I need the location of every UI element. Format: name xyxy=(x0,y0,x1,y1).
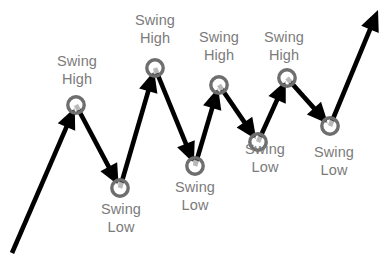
trend-segment xyxy=(12,125,67,253)
trend-segment xyxy=(155,68,187,146)
label-line-1: Swing xyxy=(305,143,363,161)
label-line-2: Low xyxy=(236,158,294,176)
label-line-2: Low xyxy=(92,218,150,236)
label-line-2: Low xyxy=(166,196,224,214)
swing-point-center-icon xyxy=(70,99,82,111)
label-swing-high-1: SwingHigh xyxy=(48,52,106,88)
label-line-2: High xyxy=(126,29,184,47)
label-swing-low-3: SwingLow xyxy=(236,140,294,176)
label-line-2: High xyxy=(190,46,248,64)
label-line-1: Swing xyxy=(126,11,184,29)
trend-segment xyxy=(287,78,315,110)
trend-segment xyxy=(330,28,371,126)
trend-segment xyxy=(76,105,110,169)
label-swing-low-1: SwingLow xyxy=(92,200,150,236)
label-swing-high-4: SwingHigh xyxy=(255,28,313,64)
label-line-1: Swing xyxy=(236,140,294,158)
label-swing-low-4: SwingLow xyxy=(305,143,363,179)
swing-structure-diagram: SwingHighSwingLowSwingHighSwingLowSwingH… xyxy=(0,0,390,257)
label-swing-high-3: SwingHigh xyxy=(190,28,248,64)
label-line-1: Swing xyxy=(255,28,313,46)
label-line-1: Swing xyxy=(48,52,106,70)
swing-point-center-icon xyxy=(149,62,161,74)
label-line-1: Swing xyxy=(166,178,224,196)
label-line-2: High xyxy=(255,46,313,64)
label-swing-high-2: SwingHigh xyxy=(126,11,184,47)
swing-point-center-icon xyxy=(281,72,293,84)
label-swing-low-2: SwingLow xyxy=(166,178,224,214)
swing-point-center-icon xyxy=(324,120,336,132)
label-line-1: Swing xyxy=(190,28,248,46)
swing-point-center-icon xyxy=(114,182,126,194)
trend-segment xyxy=(120,89,149,188)
label-line-2: Low xyxy=(305,161,363,179)
label-line-1: Swing xyxy=(92,200,150,218)
swing-point-center-icon xyxy=(213,79,225,91)
swing-point-center-icon xyxy=(189,160,201,172)
label-line-2: High xyxy=(48,70,106,88)
